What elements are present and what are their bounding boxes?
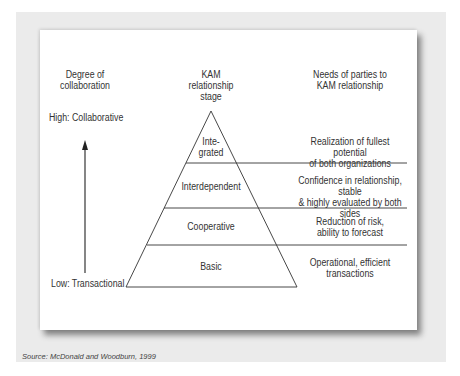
axis-low-label: Low: Transactional — [51, 278, 148, 289]
need-integrated: Realization of fullest potential of both… — [293, 136, 407, 169]
axis-high-label: High: Collaborative — [49, 112, 155, 123]
stage-interdependent: Interdependent — [176, 181, 246, 192]
source-caption: Source: McDonald and Woodburn, 1999 — [22, 352, 156, 361]
stage-basic: Basic — [176, 261, 246, 272]
stage-integrated: Inte- grated — [193, 136, 228, 158]
need-cooperative: Reduction of risk, ability to forecast — [297, 216, 403, 238]
header-needs: Needs of parties to KAM relationship — [306, 69, 394, 91]
arrow-up-icon — [82, 140, 88, 150]
header-stage: KAM relationship stage — [180, 69, 242, 102]
header-collaboration: Degree of collaboration — [54, 69, 116, 91]
stage-cooperative: Cooperative — [176, 221, 246, 232]
need-basic: Operational, efficient transactions — [297, 257, 403, 279]
need-interdependent: Confidence in relationship, stable & hig… — [288, 175, 411, 219]
